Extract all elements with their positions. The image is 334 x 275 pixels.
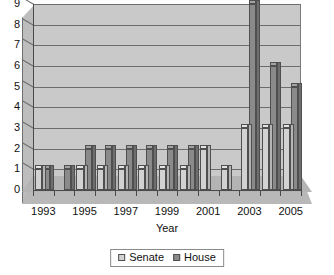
x-axis-tick: [115, 190, 116, 196]
bar-top: [221, 165, 228, 169]
x-axis-tick: [260, 190, 261, 196]
x-axis-tick: [95, 190, 96, 196]
x-axis-tick-label: 1993: [31, 205, 55, 217]
bar-senate-1996: [97, 169, 104, 190]
x-axis-tick-label: 1999: [155, 205, 179, 217]
bar-side: [195, 145, 199, 190]
x-axis-tick-label: 2001: [196, 205, 220, 217]
bar-senate-1997: [118, 169, 125, 190]
bar-face: [118, 169, 125, 190]
bar-side: [228, 165, 232, 190]
bar-side: [42, 165, 46, 190]
x-axis-tick: [219, 190, 220, 196]
bar-senate-2005: [283, 128, 290, 190]
x-axis-tick: [157, 190, 158, 196]
bar-face: [97, 169, 104, 190]
bar-top: [188, 145, 195, 149]
x-axis-tick-label: 2005: [278, 205, 302, 217]
bar-side: [112, 145, 116, 190]
bar-top: [35, 165, 42, 169]
x-axis-tick-label: 1997: [114, 205, 138, 217]
y-axis-labels: 9876543210: [0, 0, 22, 205]
bar-senate-2000: [180, 169, 187, 190]
x-axis-tick: [301, 190, 302, 196]
bar-face: [64, 169, 71, 190]
bar-senate-2003: [241, 128, 248, 190]
bar-side: [71, 165, 75, 190]
legend-label-senate: Senate: [129, 252, 164, 263]
bar-top: [241, 124, 248, 128]
chart-container: 9876543210 1993199519971999200120032005 …: [0, 0, 334, 275]
bar-top: [270, 62, 277, 66]
bar-senate-2001: [200, 149, 207, 190]
x-axis-labels: 1993199519971999200120032005: [22, 205, 312, 221]
bar-side: [277, 62, 281, 190]
bar-side: [298, 83, 302, 190]
bar-side: [248, 124, 252, 190]
bar-side: [104, 165, 108, 190]
x-axis-tick: [239, 190, 240, 196]
bar-side: [92, 145, 96, 190]
bar-side: [145, 165, 149, 190]
bar-top: [180, 165, 187, 169]
bar-top: [76, 165, 83, 169]
bar-face: [159, 169, 166, 190]
x-axis-tick: [198, 190, 199, 196]
bar-top: [262, 124, 269, 128]
bar-side: [187, 165, 191, 190]
bar-top: [159, 165, 166, 169]
bar-side: [269, 124, 273, 190]
x-axis-tick: [280, 190, 281, 196]
bar-face: [138, 169, 145, 190]
bar-senate-1993: [35, 169, 42, 190]
legend-item-senate: Senate: [118, 252, 164, 263]
bar-top: [291, 83, 298, 87]
y-axis-tick-label: 0: [14, 184, 20, 195]
legend-item-house: House: [173, 252, 216, 263]
bar-top: [249, 0, 256, 4]
bar-side: [133, 145, 137, 190]
x-axis-title: Year: [0, 222, 334, 234]
legend-swatch-house-icon: [173, 254, 180, 261]
y-axis-tick-label: 7: [14, 39, 20, 50]
bar-top: [126, 145, 133, 149]
bar-side: [290, 124, 294, 190]
bar-top: [97, 165, 104, 169]
x-axis-tick-label: 2003: [237, 205, 261, 217]
y-axis-tick-label: 4: [14, 101, 20, 112]
bar-side: [256, 0, 260, 190]
bar-face: [76, 169, 83, 190]
bar-face: [35, 169, 42, 190]
plot-area: [22, 4, 312, 204]
bar-face: [262, 128, 269, 190]
x-axis-tick: [74, 190, 75, 196]
bar-series-group: [22, 4, 312, 204]
bar-house-1994: [64, 169, 71, 190]
bar-side: [84, 165, 88, 190]
x-axis-ticks: [22, 190, 312, 206]
bar-top: [138, 165, 145, 169]
x-axis-tick: [54, 190, 55, 196]
bar-top: [200, 145, 207, 149]
y-axis-tick-label: 2: [14, 143, 20, 154]
bar-side: [174, 145, 178, 190]
bar-top: [85, 145, 92, 149]
y-axis-tick-label: 6: [14, 60, 20, 71]
bar-face: [241, 128, 248, 190]
y-axis-tick-label: 8: [14, 19, 20, 30]
y-axis-tick-label: 1: [14, 163, 20, 174]
bar-senate-2004: [262, 128, 269, 190]
bar-senate-2002: [221, 169, 228, 190]
bar-side: [207, 145, 211, 190]
y-axis-tick-label: 9: [14, 0, 20, 9]
bar-senate-1998: [138, 169, 145, 190]
bar-top: [283, 124, 290, 128]
bar-face: [283, 128, 290, 190]
y-axis-tick-label: 5: [14, 81, 20, 92]
y-axis-tick-label: 3: [14, 122, 20, 133]
bar-face: [221, 169, 228, 190]
bar-top: [118, 165, 125, 169]
bar-top: [105, 145, 112, 149]
bar-side: [166, 165, 170, 190]
bar-top: [64, 165, 71, 169]
